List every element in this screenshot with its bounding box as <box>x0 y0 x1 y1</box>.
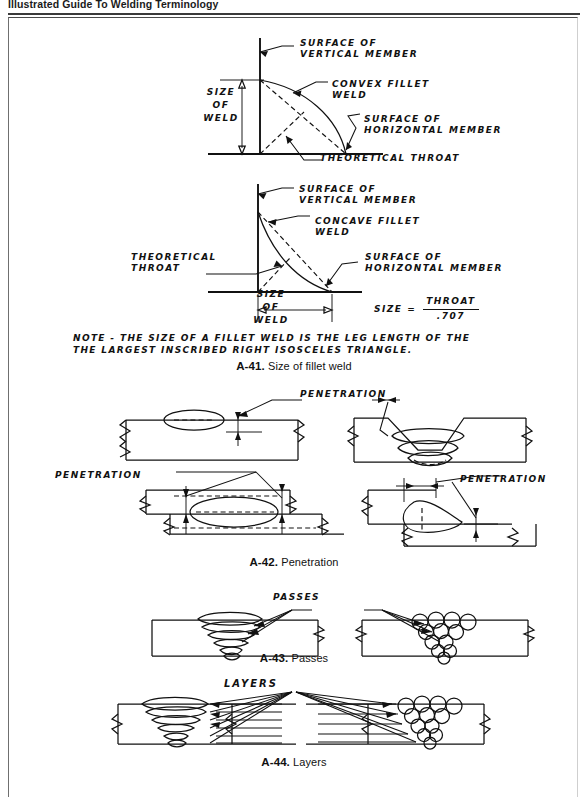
caption-a44-title: Layers <box>293 756 327 768</box>
a44-drawing <box>106 692 496 754</box>
a41-note-line-2: THE LARGEST INSCRIBED RIGHT ISOSCELES TR… <box>73 345 412 356</box>
a41-size-of-weld-line1: SIZE <box>199 87 243 98</box>
figure-a41: SURFACE OF VERTICAL MEMBER CONVEX FILLET… <box>0 0 588 380</box>
a41-size-of-weld-line2: OF <box>199 100 243 111</box>
a41-size-formula: SIZE = THROAT .707 <box>374 296 479 322</box>
a42-topright-drawing <box>330 390 560 472</box>
caption-a44-number: A-44. <box>261 756 290 768</box>
a41-size-of-weld-2-line1: SIZE <box>236 289 306 300</box>
caption-a43: A-43. Passes <box>0 652 588 664</box>
a43-label-passes: PASSES <box>273 592 320 603</box>
figure-a42: PENETRATION <box>0 382 588 572</box>
caption-a41-number: A-41. <box>236 360 265 372</box>
caption-a42: A-42. Penetration <box>0 556 588 568</box>
caption-a42-title: Penetration <box>281 556 338 568</box>
a42-label-penetration-midright: PENETRATION <box>460 474 547 485</box>
caption-a44: A-44. Layers <box>0 756 588 768</box>
a42-midleft-drawing <box>130 470 360 550</box>
a41-label-surface-horizontal: SURFACE OF HORIZONTAL MEMBER <box>364 114 502 136</box>
a41-size-of-weld-2-line2: OF <box>236 302 306 313</box>
a41-label-surface-vertical-2: SURFACE OF VERTICAL MEMBER <box>299 184 417 206</box>
caption-a41-title: Size of fillet weld <box>268 360 352 372</box>
a41-label-theoretical-throat-2: THEORETICAL THROAT <box>131 252 217 274</box>
formula-denominator: .707 <box>423 311 479 322</box>
figure-a43: PASSES <box>0 592 588 670</box>
a41-label-surface-vertical: SURFACE OF VERTICAL MEMBER <box>300 38 418 60</box>
a41-label-theoretical-throat: THEORETICAL THROAT <box>320 153 460 164</box>
formula-fraction-bar <box>423 309 479 310</box>
caption-a41: A-41. Size of fillet weld <box>0 360 588 372</box>
a41-label-surface-horizontal-2: SURFACE OF HORIZONTAL MEMBER <box>365 252 503 274</box>
a41-label-convex-fillet: CONVEX FILLET WELD <box>332 79 430 101</box>
a41-size-of-weld-line3: WELD <box>199 113 243 124</box>
caption-a43-title: Passes <box>292 652 329 664</box>
formula-lhs: SIZE = <box>374 304 416 315</box>
figure-a44: LAYERS <box>0 678 588 774</box>
a44-label-layers: LAYERS <box>224 678 278 689</box>
a42-topleft-drawing <box>102 392 332 470</box>
a41-label-concave-fillet: CONCAVE FILLET WELD <box>315 216 420 238</box>
a41-size-of-weld-2-line3: WELD <box>236 315 306 326</box>
formula-numerator: THROAT <box>423 296 479 307</box>
caption-a43-number: A-43. <box>260 652 289 664</box>
a41-note-line-1: NOTE - THE SIZE OF A FILLET WELD IS THE … <box>73 333 470 344</box>
a42-label-penetration-midleft: PENETRATION <box>55 470 142 481</box>
caption-a42-number: A-42. <box>249 556 278 568</box>
